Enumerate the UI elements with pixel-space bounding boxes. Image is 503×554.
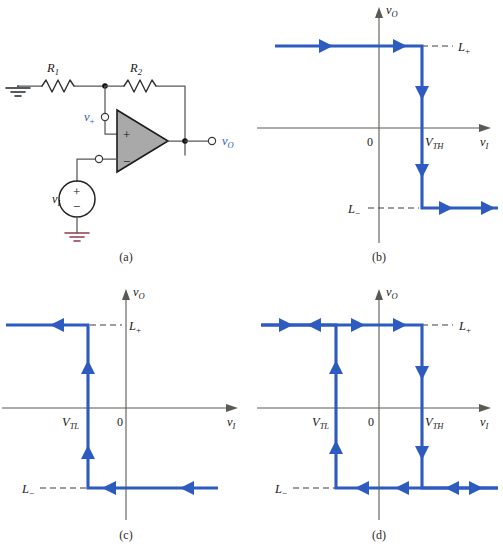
chart-b-y-axis-arrowhead xyxy=(375,7,383,18)
chart-b-svg: vO vI 0 L+ L− VTH xyxy=(255,0,503,277)
wire-to-opamp-plus xyxy=(105,121,117,134)
chart-c-y-axis-arrowhead xyxy=(122,289,130,300)
panel-b-caption: (b) xyxy=(255,250,503,265)
chart-d-lplus-label: L+ xyxy=(458,319,471,335)
panel-c-caption: (c) xyxy=(0,528,252,543)
resistor-r2-label: R2 xyxy=(129,61,143,77)
chart-c-transfer-curve xyxy=(6,325,218,488)
chart-c-vtl-label: VTL xyxy=(62,415,79,431)
terminal-vminus-input xyxy=(95,155,102,162)
chart-b-arrow-down-1 xyxy=(415,86,429,100)
chart-b-x-axis-arrowhead xyxy=(479,124,491,132)
panel-d-caption: (d) xyxy=(255,528,503,543)
circuit-svg: R1 R2 v+ + − xyxy=(0,0,252,277)
chart-c-arrow-lower-1 xyxy=(180,481,194,495)
chart-b-transfer-curve xyxy=(275,46,498,208)
panel-a-circuit: R1 R2 v+ + − xyxy=(0,0,252,277)
chart-d-arrow-top-right-2 xyxy=(351,318,365,332)
chart-d-arrow-top-right-3 xyxy=(393,318,407,332)
chart-b-arrow-upper-2 xyxy=(393,39,407,53)
chart-c-x-axis-arrowhead xyxy=(226,404,238,412)
ground-left-icon xyxy=(6,88,30,96)
vout-label: vO xyxy=(222,134,234,150)
chart-d-arrow-top-right-1 xyxy=(279,318,293,332)
panel-b-chart: vO vI 0 L+ L− VTH (b) xyxy=(255,0,503,277)
chart-b-arrow-down-2 xyxy=(415,164,429,178)
wire-source-to-opamp xyxy=(77,159,95,181)
chart-d-svg: vO vI 0 L+ L− VTL VTH xyxy=(255,280,503,554)
ground-bottom-icon xyxy=(65,233,89,241)
chart-d-arrow-bottom-left-3 xyxy=(445,481,459,495)
chart-d-vth-label: VTH xyxy=(425,415,444,431)
chart-d-arrow-up-2 xyxy=(329,440,343,454)
chart-c-arrow-up-1 xyxy=(81,445,95,459)
chart-d-arrow-bottom-left-1 xyxy=(355,481,369,495)
terminal-vplus xyxy=(101,113,108,120)
source-minus-sign: − xyxy=(73,199,80,214)
resistor-r1 xyxy=(42,80,74,92)
chart-b-arrow-lower-1 xyxy=(439,201,453,215)
chart-d-x-axis-arrowhead xyxy=(479,404,491,412)
chart-b-arrow-upper-1 xyxy=(319,39,333,53)
panel-c-chart: vO vI 0 L+ L− VTL (c) xyxy=(0,280,252,554)
chart-c-arrow-lower-2 xyxy=(102,481,116,495)
chart-c-arrow-upper-1 xyxy=(50,318,64,332)
chart-c-origin-label: 0 xyxy=(117,415,123,429)
chart-d-y-axis-label: vO xyxy=(386,285,398,301)
opamp-plus-sign: + xyxy=(123,127,130,142)
chart-b-lplus-label: L+ xyxy=(457,40,470,56)
chart-b-x-axis-label: vI xyxy=(480,135,490,151)
chart-c-lplus-label: L+ xyxy=(128,319,141,335)
chart-d-arrow-bottom-right-1 xyxy=(469,481,483,495)
chart-b-y-axis-label: vO xyxy=(386,3,398,19)
resistor-r1-label: R1 xyxy=(46,61,59,77)
chart-d-vtl-label: VTL xyxy=(312,415,329,431)
chart-d-lminus-label: L− xyxy=(274,482,287,498)
panel-d-chart: vO vI 0 L+ L− VTL VTH xyxy=(255,280,503,554)
opamp-minus-sign: − xyxy=(123,154,130,169)
chart-d-y-axis-arrowhead xyxy=(375,289,383,300)
resistor-r2 xyxy=(124,80,156,92)
chart-c-arrow-up-2 xyxy=(81,360,95,374)
chart-b-arrow-lower-2 xyxy=(481,201,495,215)
chart-b-origin-label: 0 xyxy=(367,135,373,149)
vplus-label: v+ xyxy=(84,110,95,126)
chart-d-arrow-up-1 xyxy=(329,360,343,374)
chart-d-arrow-top-left-1 xyxy=(307,318,321,332)
chart-b-lminus-label: L− xyxy=(347,202,360,218)
chart-b-vth-label: VTH xyxy=(425,135,444,151)
terminal-vout xyxy=(208,137,215,144)
panel-a-caption: (a) xyxy=(0,250,252,265)
chart-d-x-axis-label: vI xyxy=(480,415,490,431)
chart-c-y-axis-label: vO xyxy=(133,285,145,301)
chart-d-origin-label: 0 xyxy=(368,415,374,429)
chart-c-x-axis-label: vI xyxy=(227,415,237,431)
chart-c-svg: vO vI 0 L+ L− VTL xyxy=(0,280,252,554)
chart-d-arrow-bottom-left-2 xyxy=(395,481,409,495)
chart-d-arrow-down-1 xyxy=(415,366,429,380)
chart-c-lminus-label: L− xyxy=(21,482,34,498)
chart-d-arrow-down-2 xyxy=(415,446,429,460)
figure-root: R1 R2 v+ + − xyxy=(0,0,503,554)
source-plus-sign: + xyxy=(73,184,80,199)
